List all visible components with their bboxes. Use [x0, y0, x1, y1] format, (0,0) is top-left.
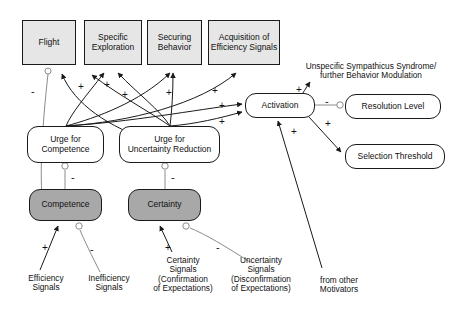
polarity-sign-s-competence-inhibit: -: [71, 172, 75, 183]
state-node-certainty-label: Certainty: [147, 200, 181, 210]
polarity-sign-s-act-in-top: +: [219, 101, 225, 111]
inhibit-head-urge-uncertainty: [162, 163, 168, 169]
behavior-box-flight-label: Flight: [39, 38, 60, 48]
activation-node[interactable]: Activation: [245, 93, 315, 118]
polarity-sign-s-specific-2: +: [104, 80, 110, 90]
urge-node-competence[interactable]: Urge for Competence: [27, 126, 104, 163]
polarity-sign-s-flight-minus: -: [31, 86, 35, 97]
urge-node-uncertainty-reduction-label: Urge for Uncertainty Reduction: [128, 135, 212, 154]
polarity-sign-s-sympathicus: +: [296, 85, 302, 95]
label-uncertainty-signals: Uncertainty Signals (Disconfirmation of …: [220, 256, 302, 293]
label-efficiency-signals-text: Efficiency Signals: [28, 274, 63, 293]
urge-node-uncertainty-reduction[interactable]: Urge for Uncertainty Reduction: [119, 126, 220, 163]
selection-threshold-node[interactable]: Selection Threshold: [345, 144, 445, 169]
polarity-sign-s-securing-1: +: [166, 88, 172, 98]
state-node-competence-label: Competence: [41, 200, 89, 210]
urge-node-competence-label: Urge for Competence: [41, 135, 89, 154]
polarity-sign-s-other-motivators: +: [291, 127, 297, 137]
behavior-box-acquisition-efficiency[interactable]: Acquisition of Efficiency Signals: [208, 20, 280, 65]
polarity-sign-s-act-in-bot: +: [219, 117, 225, 127]
edge-urge-competence-to-specific: [66, 73, 104, 126]
inhibit-head-competence: [76, 223, 82, 229]
label-certainty-signals: Certainty Signals (Confirmation of Expec…: [146, 256, 220, 293]
diagram-canvas: Flight Specific Exploration Securing Beh…: [0, 0, 451, 328]
behavior-box-acquisition-efficiency-label: Acquisition of Efficiency Signals: [211, 33, 277, 52]
edge-urge-uncertainty-to-activation: [170, 112, 242, 126]
inhibit-head-certainty: [183, 223, 189, 229]
polarity-sign-s-selection: +: [325, 119, 331, 129]
label-from-other-motivators: from other Motivators: [308, 276, 370, 295]
inhibit-head-flight: [45, 68, 51, 74]
polarity-sign-s-certainty-sig: +: [165, 243, 171, 253]
edge-urge-uncertainty-to-securing: [170, 73, 173, 126]
behavior-box-securing-behavior[interactable]: Securing Behavior: [147, 20, 202, 65]
inhibit-head-urge-competence: [62, 163, 68, 169]
behavior-box-flight[interactable]: Flight: [22, 20, 76, 65]
polarity-sign-s-specific-3: +: [122, 90, 128, 100]
label-inefficiency-signals-text: Inefficiency Signals: [88, 274, 129, 293]
resolution-level-node-label: Resolution Level: [362, 102, 425, 112]
polarity-sign-s-efficiency: +: [42, 243, 48, 253]
state-node-certainty[interactable]: Certainty: [128, 189, 201, 221]
label-certainty-signals-text: Certainty Signals (Confirmation of Expec…: [153, 256, 213, 293]
polarity-sign-s-acquisition-1: +: [212, 86, 218, 96]
label-unspecific-sympathicus-text: Unspecific Sympathicus Syndrome/ further…: [306, 62, 437, 81]
state-node-competence[interactable]: Competence: [29, 189, 102, 221]
label-from-other-motivators-text: from other Motivators: [320, 276, 358, 295]
polarity-sign-s-certainty-inhibit: -: [171, 172, 175, 183]
inhibit-head-resolution: [337, 102, 343, 108]
polarity-sign-s-uncertainty-sig: -: [216, 242, 220, 253]
activation-node-label: Activation: [262, 101, 299, 111]
label-efficiency-signals: Efficiency Signals: [18, 274, 74, 293]
selection-threshold-node-label: Selection Threshold: [358, 152, 433, 162]
label-inefficiency-signals: Inefficiency Signals: [78, 274, 140, 293]
label-uncertainty-signals-text: Uncertainty Signals (Disconfirmation of …: [231, 256, 291, 293]
resolution-level-node[interactable]: Resolution Level: [345, 94, 441, 119]
polarity-sign-s-resolution-minus: -: [325, 96, 329, 107]
behavior-box-specific-exploration[interactable]: Specific Exploration: [84, 20, 142, 65]
label-unspecific-sympathicus: Unspecific Sympathicus Syndrome/ further…: [292, 62, 450, 81]
polarity-sign-s-specific-1: +: [78, 82, 84, 92]
polarity-sign-s-inefficiency: -: [90, 244, 94, 255]
behavior-box-securing-behavior-label: Securing Behavior: [158, 33, 192, 52]
behavior-box-specific-exploration-label: Specific Exploration: [92, 33, 135, 52]
edge-other-motivators-to-activation: [278, 121, 322, 268]
